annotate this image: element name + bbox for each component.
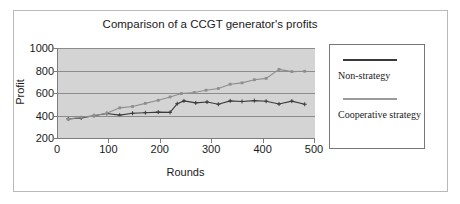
legend-label-cooperative-strategy: Cooperative strategy <box>338 109 424 121</box>
x-tick-mark <box>211 139 212 143</box>
x-tick-label: 100 <box>88 143 128 155</box>
data-point-marker <box>240 99 244 103</box>
data-point-marker <box>194 101 198 105</box>
y-tick-mark <box>53 93 57 94</box>
gridline <box>58 71 315 72</box>
data-point-marker <box>157 99 160 102</box>
y-tick-mark <box>53 138 57 139</box>
y-axis-tick-labels: 2004006008001000 <box>10 0 54 204</box>
y-tick-label: 1000 <box>14 43 54 54</box>
data-point-marker <box>169 96 172 99</box>
y-tick-mark <box>53 71 57 72</box>
data-point-marker <box>253 78 256 81</box>
data-point-marker <box>229 83 232 86</box>
data-point-marker <box>228 99 232 103</box>
x-tick-mark <box>108 139 109 143</box>
x-tick-mark <box>263 139 264 143</box>
gridline <box>58 48 315 49</box>
data-point-marker <box>290 99 294 103</box>
legend-label-non-strategy: Non-strategy <box>338 70 424 82</box>
data-point-marker <box>156 110 160 114</box>
legend-swatch-cooperative-strategy <box>343 98 397 100</box>
data-point-marker <box>241 81 244 84</box>
y-tick-label: 600 <box>14 88 54 99</box>
data-point-marker <box>303 102 307 106</box>
x-tick-label: 200 <box>140 143 180 155</box>
x-tick-label: 500 <box>294 143 334 155</box>
chart-figure: Comparison of a CCGT generator's profits… <box>0 0 460 204</box>
data-point-marker <box>67 118 70 121</box>
data-point-marker <box>144 102 147 105</box>
data-point-marker <box>182 99 186 103</box>
y-tick-mark <box>53 48 57 49</box>
data-point-marker <box>265 77 268 80</box>
x-tick-mark <box>160 139 161 143</box>
data-point-marker <box>105 112 108 115</box>
x-axis-label: Rounds <box>57 166 314 178</box>
x-tick-label: 400 <box>243 143 283 155</box>
series-line <box>68 69 304 119</box>
gridline <box>58 116 315 117</box>
data-point-marker <box>264 99 268 103</box>
data-point-marker <box>205 89 208 92</box>
gridline <box>58 93 315 94</box>
legend-swatch-non-strategy <box>343 59 397 61</box>
data-point-marker <box>131 105 134 108</box>
y-tick-mark <box>53 116 57 117</box>
data-point-marker <box>277 102 281 106</box>
x-tick-label: 0 <box>37 143 77 155</box>
data-point-marker <box>118 106 121 109</box>
data-point-marker <box>216 102 220 106</box>
data-point-marker <box>205 100 209 104</box>
x-tick-mark <box>314 139 315 143</box>
plot-area <box>57 48 315 139</box>
y-tick-label: 800 <box>14 66 54 77</box>
data-point-marker <box>217 87 220 90</box>
data-point-marker <box>252 99 256 103</box>
legend: Non-strategy Cooperative strategy <box>329 44 425 149</box>
y-tick-label: 400 <box>14 111 54 122</box>
x-tick-label: 300 <box>191 143 231 155</box>
data-point-marker <box>143 111 147 115</box>
